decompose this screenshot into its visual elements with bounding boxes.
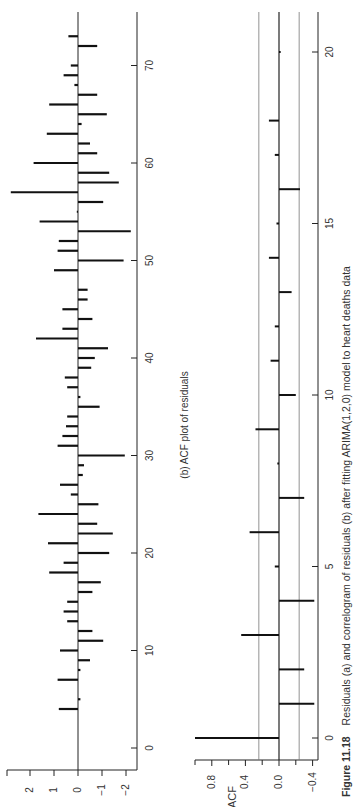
- acf-plot: 0.80.40.0−0.405101520: [195, 12, 335, 792]
- acf-value-tick-label: 0.8: [206, 775, 217, 789]
- acf-value-tick-label: 0.4: [239, 775, 250, 789]
- residuals-plot: 210−1−2010203040506070: [7, 12, 155, 796]
- acf-lag-tick-label: 5: [324, 563, 335, 569]
- acf-lag-tick-label: 15: [324, 218, 335, 230]
- figure-caption: Figure 11.18 Residuals (a) and correlogr…: [340, 266, 352, 797]
- acf-lag-tick-label: 20: [324, 46, 335, 58]
- value-tick-label: 1: [48, 787, 59, 793]
- time-tick-label: 10: [144, 645, 155, 657]
- time-tick-label: 50: [144, 255, 155, 267]
- value-tick-label: 0: [72, 787, 83, 793]
- time-tick-label: 0: [144, 745, 155, 751]
- time-tick-label: 60: [144, 157, 155, 169]
- acf-axis-label: ACF: [226, 786, 238, 807]
- time-tick-label: 70: [144, 60, 155, 72]
- svg-text:Figure 11.18 Residuals (: Figure 11.18 Residuals (a) and correlogr…: [340, 266, 352, 797]
- value-tick-label: −1: [96, 784, 107, 796]
- time-tick-label: 30: [144, 450, 155, 462]
- acf-panel-title: (b) ACF plot of residuals: [179, 371, 190, 478]
- caption-text: Residuals (a) and correlogram of residua…: [340, 266, 352, 725]
- value-tick-label: −2: [120, 784, 131, 796]
- acf-lag-tick-label: 10: [324, 389, 335, 401]
- time-tick-label: 40: [144, 352, 155, 364]
- acf-value-tick-label: −0.4: [307, 772, 318, 792]
- time-tick-label: 20: [144, 547, 155, 559]
- acf-value-tick-label: 0.0: [273, 775, 284, 789]
- acf-lag-tick-label: 0: [324, 735, 335, 741]
- figure-canvas: 210−1−2010203040506070 0.80.40.0−0.40510…: [0, 0, 356, 807]
- value-tick-label: 2: [24, 787, 35, 793]
- caption-label: Figure 11.18: [340, 736, 352, 797]
